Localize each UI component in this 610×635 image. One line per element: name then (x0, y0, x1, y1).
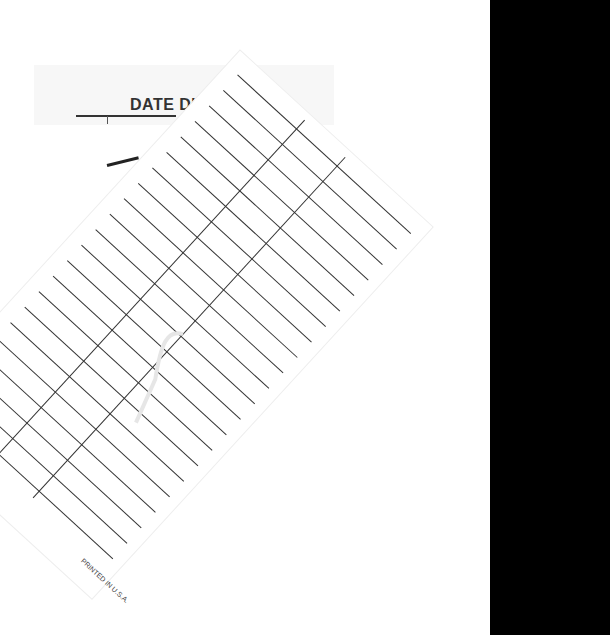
scanner-edge (490, 0, 610, 635)
slip-card (0, 50, 433, 599)
scanned-page: DATE DU (0, 0, 610, 635)
